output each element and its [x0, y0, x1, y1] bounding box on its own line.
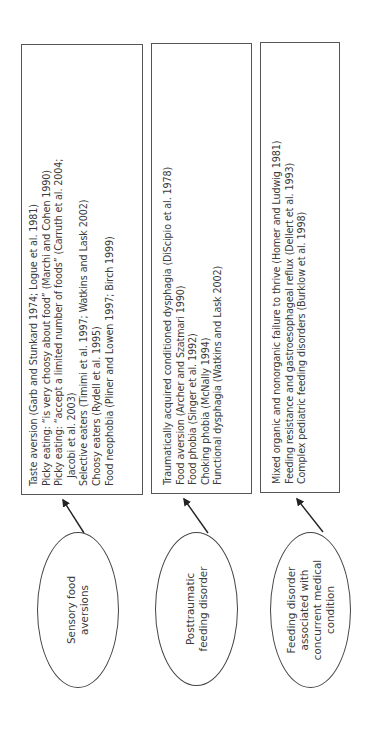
- diagram-canvas: Taste aversion (Garb and Stunkard 1974; …: [0, 0, 369, 729]
- example-line: Choosy eaters (Rydell et al. 1995): [91, 51, 104, 486]
- category-label-line: aversions: [78, 576, 91, 644]
- example-line: Complex pediatric feeding disorders (Bur…: [296, 49, 309, 484]
- examples-box-posttraumatic: Traumatically acquired conditioned dysph…: [151, 43, 252, 494]
- example-line: Feeding resistance and gastroesophageal …: [284, 49, 297, 484]
- category-label-line: concurrent medical: [311, 560, 324, 660]
- category-ellipse-sensory: Sensory food aversions: [37, 532, 119, 688]
- example-line: Taste aversion (Garb and Stunkard 1974; …: [28, 51, 41, 486]
- example-line: Jacobi et al. 2003): [66, 51, 79, 486]
- example-line: Mixed organic and nonorganic failure to …: [271, 49, 284, 484]
- example-line: Picky eating: “is very choosy about food…: [41, 51, 54, 486]
- example-line: Selective eaters (Timimi et al. 1997; Wa…: [78, 51, 91, 486]
- example-line: Choking phobia (McNally 1994): [200, 50, 213, 485]
- category-label-line: feeding disorder: [197, 567, 210, 652]
- example-line: Food neophobia (Pliner and Lowen 1997; B…: [104, 51, 117, 486]
- example-line: Food phobia (Singer et al. 1992): [187, 50, 200, 485]
- arrow-medical: [297, 499, 323, 532]
- examples-box-sensory: Taste aversion (Garb and Stunkard 1974; …: [21, 44, 143, 495]
- example-line: Picky eating: “accept a limited number o…: [53, 51, 66, 486]
- category-ellipse-medical: Feeding disorder associated with concurr…: [270, 532, 351, 688]
- example-line: Food aversion (Archer and Szatmari 1990): [175, 50, 188, 485]
- category-label-line: Sensory food: [65, 576, 78, 644]
- arrow-posttraumatic: [184, 499, 208, 533]
- category-ellipse-posttraumatic: Posttraumatic feeding disorder: [155, 532, 238, 686]
- example-line: Traumatically acquired conditioned dysph…: [162, 50, 175, 485]
- category-label-line: associated with: [298, 560, 311, 660]
- category-label-line: condition: [324, 560, 337, 660]
- examples-box-medical: Mixed organic and nonorganic failure to …: [260, 42, 340, 493]
- arrow-sensory: [63, 500, 84, 533]
- category-label-line: Posttraumatic: [184, 567, 197, 652]
- category-label-line: Feeding disorder: [285, 560, 298, 660]
- example-line: Functional dysphagia (Watkins and Lask 2…: [212, 50, 225, 485]
